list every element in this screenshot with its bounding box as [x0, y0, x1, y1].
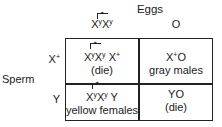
grid-divider-horizontal	[65, 83, 213, 85]
cell-phenotype: yellow females	[65, 104, 139, 117]
cell-o-xplus: X+O gray males	[139, 48, 213, 77]
cell-attached-x-y: ⌃XyXy Y yellow females	[65, 88, 139, 117]
sperm-label: Sperm	[2, 73, 34, 85]
column-header-o: O	[139, 18, 213, 30]
cell-phenotype: (die)	[139, 101, 213, 114]
cell-phenotype: (die)	[65, 64, 139, 77]
cell-phenotype: gray males	[139, 64, 213, 77]
cell-genotype: ⌃XyXy X+	[65, 48, 139, 64]
column-header-attached-x: ⌃XyXy	[65, 18, 139, 30]
attached-x-hat: ⌃XyXy	[91, 18, 113, 30]
cell-attached-x-xplus: ⌃XyXy X+ (die)	[65, 48, 139, 77]
cell-genotype: ⌃XyXy Y	[65, 88, 139, 104]
row-header-y: Y	[40, 93, 60, 105]
row-header-x-plus: X+	[40, 53, 60, 65]
cell-o-y: YO (die)	[139, 88, 213, 114]
cell-genotype: YO	[139, 88, 213, 101]
cell-genotype: X+O	[139, 48, 213, 64]
eggs-label: Eggs	[120, 3, 180, 15]
